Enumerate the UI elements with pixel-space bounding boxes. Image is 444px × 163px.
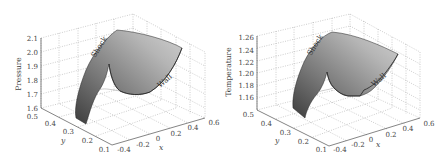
svg-text:-0.2: -0.2	[351, 141, 365, 149]
svg-text:1.7: 1.7	[27, 91, 38, 99]
x-axis-label: x	[159, 143, 164, 152]
svg-text:0.4: 0.4	[402, 125, 414, 133]
svg-text:0.4: 0.4	[261, 120, 273, 128]
svg-text:2.0: 2.0	[27, 49, 38, 57]
svg-text:0.2: 0.2	[385, 131, 396, 139]
z-axis-ticks: 1.26 1.24 1.22 1.20 1.18 1.16	[238, 34, 254, 102]
svg-text:1.26: 1.26	[238, 34, 254, 42]
svg-text:-0.2: -0.2	[136, 141, 150, 149]
svg-text:0.4: 0.4	[187, 124, 199, 132]
temperature-surface-plot: 1.26 1.24 1.22 1.20 1.18 1.16 Temperatur…	[222, 0, 444, 163]
svg-text:1.22: 1.22	[238, 59, 254, 67]
svg-text:1.8: 1.8	[27, 77, 38, 85]
svg-text:0.4: 0.4	[45, 120, 57, 128]
svg-text:0.5: 0.5	[27, 113, 38, 121]
svg-text:0.6: 0.6	[423, 120, 435, 128]
svg-text:2.1: 2.1	[27, 35, 38, 43]
svg-text:0.2: 0.2	[170, 130, 181, 138]
y-axis-ticks: 0.5 0.4 0.3 0.2 0.1	[27, 113, 110, 154]
y-axis-label: y	[60, 136, 66, 145]
svg-text:0.6: 0.6	[208, 119, 220, 127]
svg-text:0.2: 0.2	[298, 138, 309, 146]
pressure-plot-canvas: 2.1 2.0 1.9 1.8 1.7 1.6 Pressure 0.5 0.4…	[0, 0, 222, 163]
svg-text:0.1: 0.1	[99, 146, 110, 154]
svg-text:1.6: 1.6	[27, 105, 39, 113]
y-axis-ticks: 0.5 0.4 0.3 0.2 0.1	[243, 111, 327, 154]
svg-text:0.3: 0.3	[63, 128, 74, 136]
svg-text:0.1: 0.1	[316, 146, 327, 154]
z-axis-label: Temperature	[224, 47, 233, 97]
x-axis-label: x	[376, 140, 381, 149]
pressure-surface-plot: 2.1 2.0 1.9 1.8 1.7 1.6 Pressure 0.5 0.4…	[0, 0, 222, 163]
x-axis-ticks: -0.4 -0.2 0 0.2 0.4 0.6	[333, 120, 435, 154]
z-axis-label: Pressure	[14, 57, 23, 91]
svg-text:1.9: 1.9	[27, 63, 38, 71]
svg-text:1.20: 1.20	[238, 70, 254, 78]
svg-text:0: 0	[369, 136, 373, 144]
x-axis-ticks: -0.4 -0.2 0 0.2 0.4 0.6	[117, 119, 220, 154]
temperature-plot-canvas: 1.26 1.24 1.22 1.20 1.18 1.16 Temperatur…	[222, 0, 444, 163]
svg-text:0.3: 0.3	[280, 129, 291, 137]
svg-text:0: 0	[156, 135, 160, 143]
svg-text:1.24: 1.24	[238, 47, 254, 55]
z-axis-ticks: 2.1 2.0 1.9 1.8 1.7 1.6	[27, 35, 39, 113]
y-axis-label: y	[274, 136, 280, 145]
svg-text:-0.4: -0.4	[333, 146, 347, 154]
svg-text:-0.4: -0.4	[117, 146, 131, 154]
svg-text:1.18: 1.18	[238, 82, 254, 90]
svg-text:1.16: 1.16	[238, 94, 254, 102]
svg-text:0.5: 0.5	[243, 111, 254, 119]
svg-text:0.2: 0.2	[82, 137, 93, 145]
